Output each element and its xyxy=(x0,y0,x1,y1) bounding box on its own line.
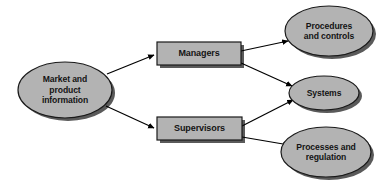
shapes xyxy=(18,6,373,177)
node-supervisors xyxy=(157,117,242,140)
node-managers xyxy=(157,42,241,65)
flowchart-diagram: Market and product information Managers … xyxy=(0,0,381,184)
edge-managers-to-systems xyxy=(241,63,292,86)
edge-managers-to-procedures xyxy=(241,41,288,51)
edge-market-to-supervisors xyxy=(106,106,154,128)
edge-market-to-managers xyxy=(107,55,154,74)
edge-supervisors-to-systems xyxy=(242,100,293,126)
node-systems xyxy=(289,76,359,110)
diagram-canvas xyxy=(0,0,381,184)
node-market-and-product-information xyxy=(18,62,112,118)
node-processes-and-regulation xyxy=(281,127,371,177)
edge-supervisors-to-processes xyxy=(242,137,289,145)
node-procedures-and-controls xyxy=(285,6,373,56)
